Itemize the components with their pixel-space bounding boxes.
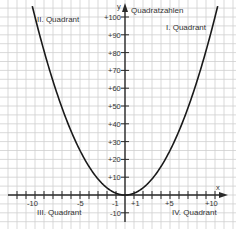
quadrant-1-label: I. Quadrant: [166, 23, 207, 32]
y-tick-label: +80: [108, 49, 121, 58]
x-tick-label: +5: [165, 199, 174, 208]
y-tick-label: +60: [108, 84, 121, 93]
x-tick-label: -5: [77, 199, 84, 208]
y-tick-label: +70: [108, 66, 121, 75]
y-axis-label: y: [117, 2, 121, 11]
y-tick-label: +30: [108, 138, 121, 147]
parabola-chart: x y Quadratzahlen I. Quadrant II. Quadra…: [0, 0, 236, 229]
x-tick-label: -1: [112, 199, 119, 208]
y-tick-label: +10: [108, 173, 121, 182]
x-axis-arrow-icon: [219, 192, 228, 198]
quadrant-3-label: III. Quadrant: [37, 208, 82, 217]
x-tick-label: -10: [27, 199, 38, 208]
quadrant-4-label: IV. Quadrant: [172, 208, 217, 217]
y-tick-label: +100: [104, 13, 121, 22]
chart-title: Quadratzahlen: [131, 6, 183, 15]
y-tick-label: -10: [110, 209, 121, 218]
y-tick-label: +50: [108, 102, 121, 111]
y-tick-label: +40: [108, 120, 121, 129]
x-tick-label: +1: [131, 199, 140, 208]
y-tick-label: +20: [108, 155, 121, 164]
y-tick-label: +90: [108, 31, 121, 40]
x-axis-label: x: [216, 183, 220, 192]
quadrant-2-label: II. Quadrant: [37, 15, 80, 24]
x-tick-label: +10: [205, 199, 218, 208]
y-axis-arrow-icon: [122, 3, 128, 12]
